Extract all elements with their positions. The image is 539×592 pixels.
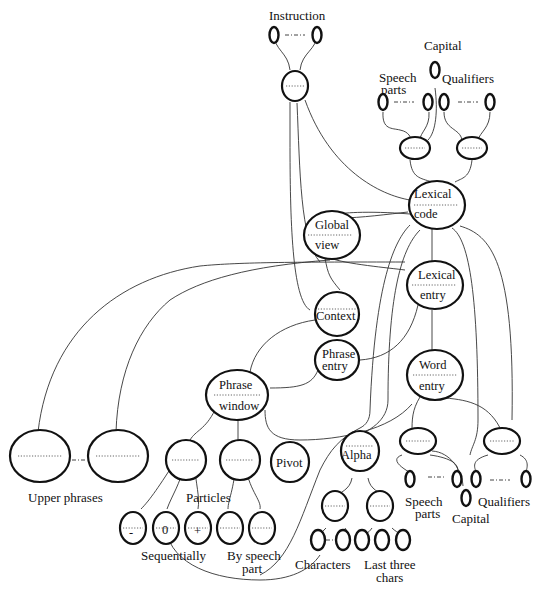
svg-text:Lexical: Lexical [414, 187, 452, 201]
qualifier-leaf [522, 471, 531, 487]
qualifier-leaf [472, 471, 481, 487]
word-entry-node: Word entry [407, 350, 463, 400]
lexical-code-node: Lexical code [409, 181, 465, 229]
last-char-leaf [355, 530, 369, 550]
word-entry-attributes: Speech parts Qualifiers Capital [400, 428, 531, 526]
svg-text:Word: Word [419, 358, 447, 372]
pivot-node: Pivot [271, 442, 309, 482]
character-leaf [311, 530, 325, 550]
alpha-group: Alpha Characters Last three chars [295, 431, 416, 585]
svg-text:view: view [315, 238, 339, 252]
speech-part-leaf [424, 94, 433, 110]
context-node: Context [315, 292, 359, 336]
svg-text:window: window [219, 399, 259, 413]
qualifiers-label-top: Qualifiers [442, 71, 494, 86]
global-view-node: Global view [304, 211, 360, 259]
svg-text:Alpha: Alpha [341, 448, 372, 462]
svg-text:0: 0 [162, 523, 168, 537]
upper-phrases-group: Upper phrases [10, 430, 148, 505]
capital-leaf-top [431, 62, 440, 78]
capital-label-bottom: Capital [452, 511, 490, 526]
by-speech-part-label-2: part [242, 561, 263, 576]
last-char-leaf [375, 530, 389, 550]
edges [38, 34, 527, 580]
lexical-entry-node: Lexical entry [407, 261, 463, 309]
qualifier-leaf [440, 94, 449, 110]
instruction-leaf-last [313, 27, 322, 43]
svg-text:+: + [194, 524, 201, 538]
svg-text:entry: entry [420, 288, 446, 302]
lexical-structure-diagram: Instruction Capital Speech parts Qualifi… [0, 0, 539, 592]
instruction-leaf-first [270, 27, 279, 43]
last-char-leaf [396, 530, 410, 550]
svg-text:-: - [129, 526, 133, 540]
svg-text:code: code [414, 207, 438, 221]
capital-leaf-bottom [462, 490, 471, 506]
speech-parts-label-bottom-2: parts [415, 506, 440, 521]
svg-text:Lexical: Lexical [418, 268, 456, 282]
last-three-chars-label-2: chars [376, 570, 403, 585]
svg-text:Global: Global [315, 218, 350, 232]
particles-label: Particles [186, 490, 231, 505]
sequentially-label: Sequentially [141, 548, 206, 563]
svg-text:Phrase: Phrase [219, 378, 253, 392]
svg-text:entry: entry [322, 359, 348, 373]
svg-text:Pivot: Pivot [276, 456, 303, 470]
instruction-group: Instruction [269, 8, 326, 101]
qualifier-leaf [486, 94, 495, 110]
speech-part-leaf [406, 471, 415, 487]
capital-label-top: Capital [424, 38, 462, 53]
phrase-window-node: Phrase window [206, 370, 268, 420]
svg-text:entry: entry [419, 379, 445, 393]
phrase-entry-node: Phrase entry [315, 340, 359, 380]
characters-label: Characters [295, 557, 351, 572]
character-leaf [336, 530, 350, 550]
qualifiers-node-top [457, 137, 487, 159]
svg-text:Context: Context [316, 309, 356, 323]
speech-parts-node-top [400, 137, 430, 159]
upper-phrases-label: Upper phrases [28, 490, 103, 505]
instruction-label: Instruction [269, 8, 326, 23]
qualifiers-label-bottom: Qualifiers [478, 494, 530, 509]
speech-part-leaf [453, 471, 462, 487]
speech-part-leaf [379, 94, 388, 110]
